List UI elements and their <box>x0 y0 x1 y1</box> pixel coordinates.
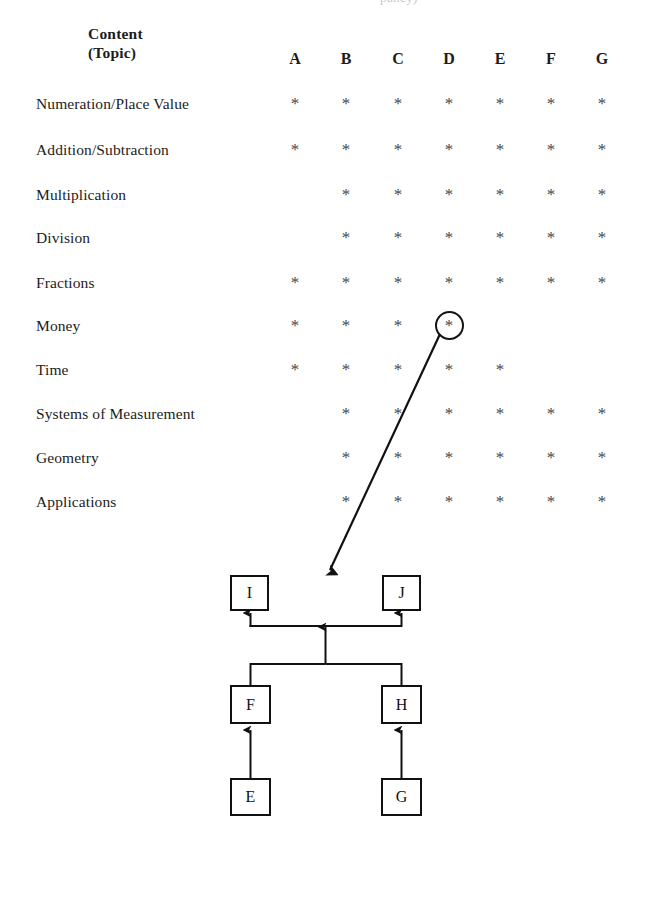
matrix-star-mark: * <box>285 274 305 292</box>
matrix-row-label: Fractions <box>36 274 286 292</box>
diagram-node-h: H <box>381 685 422 724</box>
matrix-star-mark: * <box>336 317 356 335</box>
matrix-star-mark: * <box>490 229 510 247</box>
matrix-row-label: Numeration/Place Value <box>36 95 286 113</box>
matrix-column-header-a: A <box>283 50 307 68</box>
matrix-row-label: Time <box>36 361 286 379</box>
matrix-column-header-c: C <box>386 50 410 68</box>
matrix-star-mark: * <box>592 405 612 423</box>
matrix-star-mark: * <box>336 405 356 423</box>
matrix-star-mark: * <box>388 229 408 247</box>
page-canvas: pancy) Content (Topic) ABCDEFG Numeratio… <box>0 0 651 912</box>
matrix-star-mark: * <box>592 449 612 467</box>
matrix-star-mark: * <box>285 361 305 379</box>
matrix-star-mark: * <box>388 449 408 467</box>
matrix-star-mark: * <box>490 361 510 379</box>
matrix-star-mark: * <box>439 361 459 379</box>
matrix-row-label: Systems of Measurement <box>36 405 286 423</box>
matrix-star-mark: * <box>388 405 408 423</box>
matrix-star-mark: * <box>541 141 561 159</box>
matrix-header-line1: Content <box>88 25 143 42</box>
matrix-star-mark: * <box>592 141 612 159</box>
edge-f-bus <box>251 664 326 685</box>
matrix-header-content: Content (Topic) <box>88 24 143 62</box>
matrix-row-label: Division <box>36 229 286 247</box>
matrix-row-label: Addition/Subtraction <box>36 141 286 159</box>
matrix-star-mark: * <box>592 95 612 113</box>
diagram-node-j: J <box>382 575 421 611</box>
matrix-star-mark: * <box>490 186 510 204</box>
matrix-star-mark: * <box>336 449 356 467</box>
matrix-star-mark: * <box>541 95 561 113</box>
matrix-column-header-d: D <box>437 50 461 68</box>
matrix-star-mark: * <box>592 274 612 292</box>
matrix-star-mark: * <box>541 493 561 511</box>
top-cutoff-text-value: pancy) <box>380 0 610 2</box>
matrix-column-header-g: G <box>590 50 614 68</box>
matrix-column-header-f: F <box>539 50 563 68</box>
matrix-star-mark: * <box>336 361 356 379</box>
matrix-star-mark: * <box>388 141 408 159</box>
diagram-node-f: F <box>230 685 271 724</box>
matrix-star-mark: * <box>388 274 408 292</box>
matrix-row-label: Applications <box>36 493 286 511</box>
diagram-node-i: I <box>230 575 269 611</box>
matrix-circled-highlight <box>435 311 464 340</box>
matrix-star-mark: * <box>592 493 612 511</box>
matrix-star-mark: * <box>439 274 459 292</box>
matrix-star-mark: * <box>336 274 356 292</box>
matrix-row-label: Money <box>36 317 286 335</box>
matrix-star-mark: * <box>439 405 459 423</box>
bottom-dotted-rule: ········································… <box>33 876 651 879</box>
matrix-star-mark: * <box>336 229 356 247</box>
matrix-star-mark: * <box>285 141 305 159</box>
matrix-star-mark: * <box>592 186 612 204</box>
matrix-star-mark: * <box>439 493 459 511</box>
matrix-star-mark: * <box>439 229 459 247</box>
matrix-star-mark: * <box>490 274 510 292</box>
matrix-star-mark: * <box>336 95 356 113</box>
matrix-star-mark: * <box>336 493 356 511</box>
matrix-star-mark: * <box>592 229 612 247</box>
matrix-star-mark: * <box>490 95 510 113</box>
diagram-node-g: G <box>381 778 422 816</box>
matrix-star-mark: * <box>490 493 510 511</box>
matrix-star-mark: * <box>285 317 305 335</box>
matrix-star-mark: * <box>336 186 356 204</box>
matrix-star-mark: * <box>490 449 510 467</box>
matrix-star-mark: * <box>388 361 408 379</box>
matrix-star-mark: * <box>336 141 356 159</box>
matrix-star-mark: * <box>541 186 561 204</box>
diagram-node-e: E <box>230 778 271 816</box>
matrix-column-header-e: E <box>488 50 512 68</box>
matrix-star-mark: * <box>490 141 510 159</box>
matrix-star-mark: * <box>388 493 408 511</box>
matrix-star-mark: * <box>285 95 305 113</box>
matrix-star-mark: * <box>541 229 561 247</box>
matrix-star-mark: * <box>490 405 510 423</box>
matrix-header-line2: (Topic) <box>88 43 143 62</box>
matrix-star-mark: * <box>388 317 408 335</box>
matrix-star-mark: * <box>388 95 408 113</box>
edge-upper-bus <box>251 626 402 627</box>
edge-h-bus <box>326 664 402 685</box>
matrix-star-mark: * <box>439 449 459 467</box>
matrix-star-mark: * <box>439 141 459 159</box>
matrix-column-header-b: B <box>334 50 358 68</box>
top-cutoff-text: pancy) <box>380 0 610 9</box>
matrix-star-mark: * <box>541 274 561 292</box>
matrix-star-mark: * <box>541 449 561 467</box>
matrix-star-mark: * <box>439 95 459 113</box>
matrix-star-mark: * <box>439 186 459 204</box>
matrix-star-mark: * <box>388 186 408 204</box>
matrix-row-label: Geometry <box>36 449 286 467</box>
matrix-star-mark: * <box>541 405 561 423</box>
matrix-row-label: Multiplication <box>36 186 286 204</box>
